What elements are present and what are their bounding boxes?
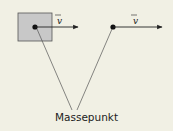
pointer-line-left (37, 29, 72, 110)
velocity-label-right: v (133, 16, 138, 26)
velocity-label-left: v (57, 16, 62, 26)
pointer-line-right (77, 29, 112, 110)
mass-point-label: Massepunkt (0, 111, 173, 123)
